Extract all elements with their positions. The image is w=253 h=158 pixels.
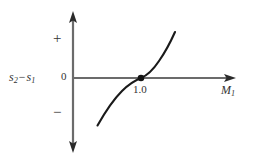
y-axis-minus-operator: − [18,70,27,84]
x-axis-label: M1 [221,84,235,98]
y-axis-var-s2: s2 [9,70,18,84]
y-axis-label: s2−s1 [9,71,35,85]
plot-canvas [0,0,253,158]
positive-sign-label: + [53,31,61,46]
y-axis-subscript-1: 1 [31,76,35,85]
x-axis-subscript-1: 1 [231,89,235,98]
crossing-value-label: 1.0 [133,84,147,95]
origin-zero-label: 0 [61,71,67,82]
y-axis-var-s1: s1 [27,70,36,84]
crossing-point-marker [138,75,145,82]
negative-sign-label: − [53,105,61,120]
entropy-vs-mach-figure: s2−s1 M1 0 + − 1.0 [0,0,253,158]
